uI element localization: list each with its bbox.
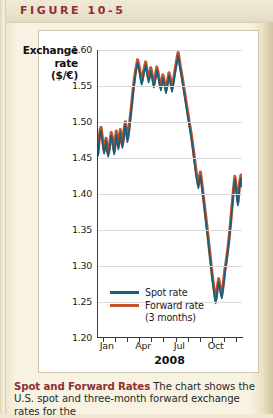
y-tick-label: 1.35 <box>58 224 92 235</box>
x-tick-label: Oct <box>201 340 231 351</box>
chart-legend: Spot rate Forward rate (3 months) <box>110 286 204 323</box>
gridline <box>97 230 242 231</box>
y-tick-label: 1.25 <box>58 296 92 307</box>
caption-title: Spot and Forward Rates <box>14 381 150 392</box>
x-tick-label: Jan <box>92 340 122 351</box>
gridline <box>97 194 242 195</box>
y-tick-label: 1.50 <box>58 116 92 127</box>
y-tick-label: 1.45 <box>58 152 92 163</box>
forward-rate-line <box>97 53 242 301</box>
y-tick-label: 1.20 <box>58 332 92 343</box>
gridline <box>97 266 242 267</box>
legend-item-spot: Spot rate <box>110 286 204 299</box>
x-axis-title: 2008 <box>97 354 242 367</box>
x-axis-line <box>97 337 243 338</box>
legend-label-forward: Forward rate <box>145 300 204 311</box>
y-tick-label: 1.30 <box>58 260 92 271</box>
y-axis-title-line2: rate <box>12 57 78 70</box>
x-tick-label: Apr <box>128 340 158 351</box>
legend-swatch-spot <box>110 291 139 294</box>
y-tick-label: 1.40 <box>58 188 92 199</box>
x-tick-label: Jul <box>164 340 194 351</box>
figure-caption: Spot and Forward Rates The chart shows t… <box>14 381 259 418</box>
gridline <box>97 122 242 123</box>
legend-label-forward-sub: (3 months) <box>145 312 204 323</box>
page-left-rule <box>5 0 6 414</box>
legend-item-forward: Forward rate <box>110 299 204 312</box>
y-tick-label: 1.60 <box>58 44 92 55</box>
figure-header-bar: FIGURE 10-5 <box>6 0 273 23</box>
x-tick-mark <box>236 338 237 342</box>
gridline <box>97 86 242 87</box>
gridline <box>97 158 242 159</box>
gridline <box>97 50 242 51</box>
y-tick-label: 1.55 <box>58 80 92 91</box>
legend-swatch-forward <box>110 304 139 307</box>
figure-number-label: FIGURE 10-5 <box>20 4 126 17</box>
legend-label-spot: Spot rate <box>145 287 188 298</box>
y-axis-line <box>97 50 98 338</box>
